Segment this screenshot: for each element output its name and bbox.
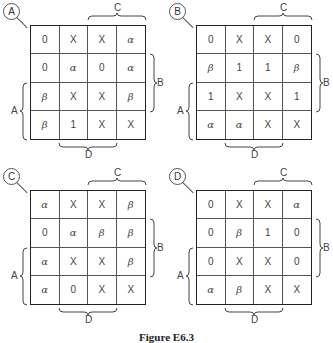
kmap-cell: α [283,191,312,219]
variable-label-b: B [157,242,164,253]
karnaugh-map-a: A0XXα0α0αβXXββ1XXCBAD [0,0,166,160]
kmap-grid: 0XXα0β100XX0αβXX [196,190,312,305]
label-leader-line [16,17,27,28]
kmap-cell: X [117,276,146,304]
kmap-cell: β [117,83,146,111]
kmap-cell: X [254,83,283,111]
kmap-cell: β [117,191,146,219]
kmap-cell: α [197,276,226,304]
kmap-cell: α [117,54,146,82]
brace-top [254,178,312,186]
karnaugh-map-d: D0XXα0β100XX0αβXXCBAD [166,165,332,325]
variable-label-c: C [114,167,121,178]
brace-top [254,13,312,21]
kmap-cell: α [197,111,226,139]
kmap-cell: 1 [226,54,255,82]
kmap-cell: 1 [60,111,89,139]
kmap-cell: 0 [283,219,312,247]
kmap-cell: 0 [31,219,60,247]
karnaugh-map-b: B0XX0β11β1XX1ααXXCBAD [166,0,332,160]
kmap-cell: β [226,219,255,247]
kmap-cell: α [226,111,255,139]
kmap-cell: 1 [254,219,283,247]
kmap-cell: X [60,248,89,276]
kmap-cell: β [31,83,60,111]
variable-label-b: B [323,242,330,253]
variable-label-c: C [280,2,287,13]
kmap-cell: β [88,219,117,247]
kmap-cell: 0 [197,248,226,276]
brace-top [88,13,146,21]
kmap-cell: 0 [197,219,226,247]
kmap-cell: X [88,83,117,111]
brace-left [20,248,28,305]
kmap-cell: X [60,191,89,219]
kmap-cell: β [283,54,312,82]
kmap-cell: α [60,219,89,247]
kmap-cell: X [226,26,255,54]
kmap-cell: X [117,111,146,139]
kmap-cell: X [88,111,117,139]
kmap-cell: X [88,276,117,304]
kmap-cell: α [31,248,60,276]
kmap-grid: 0XX0β11β1XX1ααXX [196,25,312,140]
kmap-cell: X [254,191,283,219]
kmap-cell: X [88,248,117,276]
label-leader-line [16,182,27,193]
kmap-cell: α [117,26,146,54]
kmap-cell: β [226,276,255,304]
variable-label-d: D [85,149,92,160]
kmap-cell: 0 [283,26,312,54]
label-leader-line [182,182,193,193]
kmap-cell: X [283,111,312,139]
kmap-cell: β [117,248,146,276]
brace-top [88,178,146,186]
kmap-cell: 0 [283,248,312,276]
kmap-cell: X [226,83,255,111]
kmap-cell: β [117,219,146,247]
figure-caption: Figure E6.3 [0,331,333,343]
kmap-cell: 0 [197,26,226,54]
kmap-cell: 0 [197,191,226,219]
kmap-cell: 1 [254,54,283,82]
variable-label-a: A [177,105,184,116]
kmap-cell: α [60,54,89,82]
kmap-cell: 0 [60,276,89,304]
variable-label-b: B [323,77,330,88]
variable-label-a: A [11,105,18,116]
kmap-cell: 1 [283,83,312,111]
brace-left [186,83,194,140]
kmap-cell: 0 [88,54,117,82]
kmap-cell: α [31,276,60,304]
kmap-cell: X [254,26,283,54]
variable-label-a: A [11,270,18,281]
kmap-cell: X [226,248,255,276]
kmap-cell: X [60,83,89,111]
variable-label-c: C [114,2,121,13]
kmap-cell: X [254,276,283,304]
karnaugh-map-c: CαXXβ0αββαXXβα0XXCBAD [0,165,166,325]
kmap-cell: X [283,276,312,304]
kmap-cell: X [88,26,117,54]
variable-label-b: B [157,77,164,88]
kmap-cell: 0 [31,26,60,54]
kmap-cell: β [31,111,60,139]
brace-left [186,248,194,305]
kmap-cell: X [254,248,283,276]
variable-label-a: A [177,270,184,281]
kmap-grid: αXXβ0αββαXXβα0XX [30,190,146,305]
kmap-cell: α [31,191,60,219]
kmap-cell: X [254,111,283,139]
kmap-cell: X [226,191,255,219]
variable-label-c: C [280,167,287,178]
kmap-cell: X [88,191,117,219]
variable-label-d: D [251,149,258,160]
kmap-cell: β [197,54,226,82]
kmap-grid: 0XXα0α0αβXXββ1XX [30,25,146,140]
kmap-cell: 1 [197,83,226,111]
kmap-cell: X [60,26,89,54]
brace-left [20,83,28,140]
variable-label-d: D [251,314,258,325]
variable-label-d: D [85,314,92,325]
kmap-cell: 0 [31,54,60,82]
